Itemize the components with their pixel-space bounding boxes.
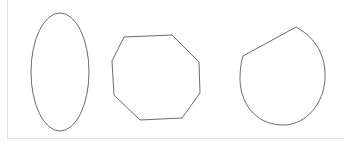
vertical-ellipse-shape (31, 13, 89, 131)
geometric-shapes-drawing (0, 0, 352, 148)
truncated-circle-shape (240, 27, 325, 125)
octagon-shape (112, 35, 200, 120)
shape-canvas-frame (0, 0, 352, 148)
